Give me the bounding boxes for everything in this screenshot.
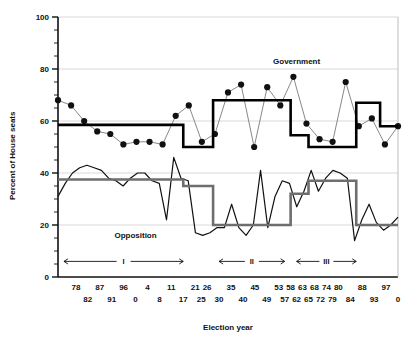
x-tick-label: 93 xyxy=(370,295,379,304)
x-tick-label: 17 xyxy=(179,295,188,304)
x-tick-label: 35 xyxy=(227,283,236,292)
x-tick-label: 26 xyxy=(203,283,212,292)
period-label: III xyxy=(323,257,329,266)
x-tick-label: 30 xyxy=(215,295,224,304)
data-point xyxy=(277,102,283,108)
government-label: Government xyxy=(273,57,320,66)
x-tick-label: 11 xyxy=(167,283,176,292)
data-point xyxy=(343,79,349,85)
x-tick-label: 4 xyxy=(145,283,150,292)
x-tick-label: 72 xyxy=(316,295,325,304)
x-axis-title: Election year xyxy=(203,323,253,332)
data-point xyxy=(186,102,192,108)
data-point xyxy=(120,141,126,147)
x-tick-label: 63 xyxy=(298,283,307,292)
data-point xyxy=(290,74,296,80)
x-tick-label: 45 xyxy=(250,283,259,292)
data-point xyxy=(303,121,309,127)
data-point xyxy=(316,136,322,142)
election-seats-chart: 020406080100 IIIIII 78879641121263545535… xyxy=(0,0,415,342)
y-tick-label: 40 xyxy=(40,169,49,178)
data-point xyxy=(173,113,179,119)
x-tick-label: 49 xyxy=(262,295,271,304)
x-tick-label: 91 xyxy=(107,295,116,304)
y-tick-label: 100 xyxy=(36,13,50,22)
x-tick-label: 80 xyxy=(334,283,343,292)
data-point xyxy=(225,89,231,95)
data-point xyxy=(94,128,100,134)
x-tick-label: 0 xyxy=(396,295,401,304)
data-point xyxy=(238,82,244,88)
chart-root: 020406080100 IIIIII 78879641121263545535… xyxy=(0,0,415,342)
x-tick-label: 88 xyxy=(358,283,367,292)
x-tick-label: 82 xyxy=(83,295,92,304)
x-tick-label: 58 xyxy=(286,283,295,292)
x-tick-label: 21 xyxy=(191,283,200,292)
x-tick-label: 96 xyxy=(119,283,128,292)
x-tick-label: 74 xyxy=(322,283,331,292)
data-point xyxy=(160,141,166,147)
x-tick-label: 25 xyxy=(197,295,206,304)
data-point xyxy=(133,139,139,145)
data-point xyxy=(251,144,257,150)
period-label: I xyxy=(123,257,125,266)
x-tick-label: 0 xyxy=(133,295,138,304)
data-point xyxy=(68,102,74,108)
opposition-label: Opposition xyxy=(114,231,156,240)
x-tick-label: 40 xyxy=(238,295,247,304)
x-tick-label: 68 xyxy=(310,283,319,292)
period-label: II xyxy=(250,257,254,266)
data-point xyxy=(264,84,270,90)
y-axis-title: Percent of House seats xyxy=(8,111,17,200)
data-point xyxy=(55,97,61,103)
x-tick-label: 53 xyxy=(274,283,283,292)
data-point xyxy=(146,139,152,145)
data-point xyxy=(330,139,336,145)
data-point xyxy=(382,141,388,147)
x-tick-label: 84 xyxy=(346,295,355,304)
x-tick-label: 8 xyxy=(157,295,162,304)
x-tick-label: 97 xyxy=(382,283,391,292)
x-tick-label: 78 xyxy=(71,283,80,292)
data-point xyxy=(369,115,375,121)
data-point xyxy=(81,118,87,124)
y-tick-label: 20 xyxy=(40,221,49,230)
x-tick-label: 87 xyxy=(95,283,104,292)
x-tick-label: 79 xyxy=(328,295,337,304)
x-tick-label: 62 xyxy=(292,295,301,304)
x-tick-label: 57 xyxy=(280,295,289,304)
x-tick-label: 65 xyxy=(304,295,313,304)
data-point xyxy=(199,139,205,145)
y-tick-label: 0 xyxy=(45,273,50,282)
y-tick-label: 60 xyxy=(40,117,49,126)
y-tick-label: 80 xyxy=(40,65,49,74)
data-point xyxy=(107,131,113,137)
